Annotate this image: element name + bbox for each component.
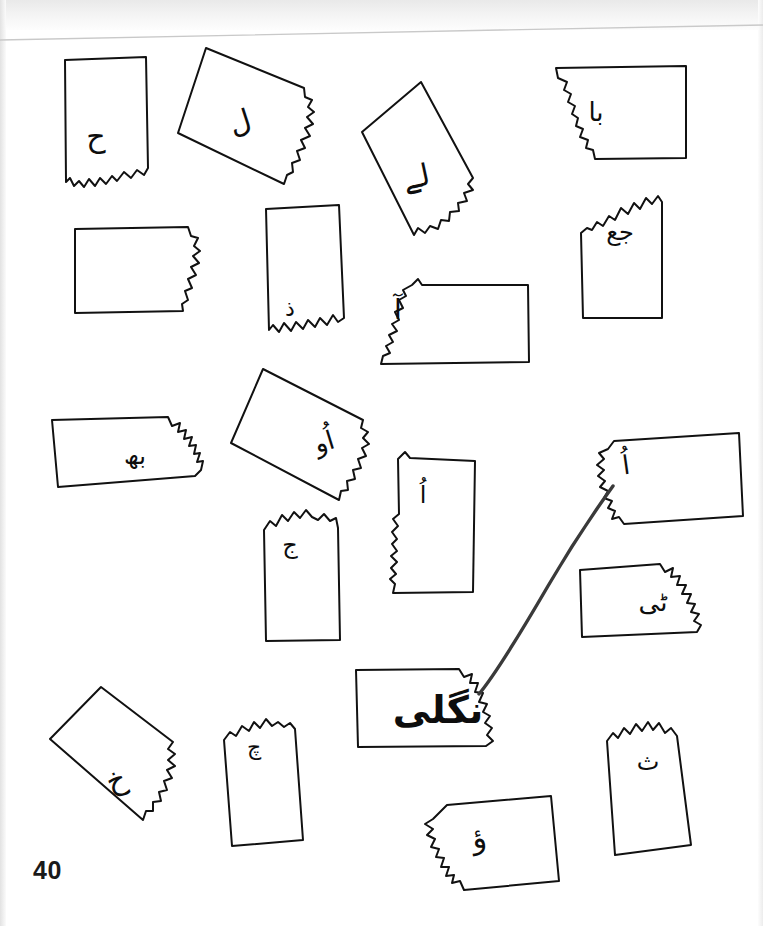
letter-card-three-dots[interactable] — [607, 722, 691, 855]
letter-card-hamza-waw[interactable] — [425, 796, 559, 890]
letter-card-jeem-dot-glyph: ج — [282, 533, 298, 557]
letter-card-nangli-glyph: نگلی — [393, 691, 483, 729]
letter-card-alif-slim-glyph: اُ — [420, 483, 427, 507]
worksheet-page: حللےباجعذآبھاُوجاُاُٹینگلیخچؤث 40 — [0, 0, 763, 926]
letter-card-jeem-ain-glyph: جع — [606, 220, 634, 244]
letter-card-baa[interactable] — [556, 66, 686, 159]
letter-card-khay[interactable] — [50, 687, 175, 820]
letter-card-dal-dot-glyph: ذ — [285, 298, 295, 320]
letter-card-cheem-glyph: چ — [247, 737, 261, 759]
letter-card-alif-damma-linked[interactable] — [597, 433, 743, 524]
letter-card-hay[interactable] — [65, 57, 148, 187]
letter-card-three-dots-glyph: ث — [637, 750, 660, 774]
letter-card-tte-ye-glyph: ٹی — [639, 589, 668, 615]
letter-card-baa-glyph: با — [588, 99, 603, 125]
letter-card-alif-slim[interactable] — [390, 452, 475, 593]
page-number: 40 — [33, 856, 62, 885]
letter-card-lay-glyph: لے — [400, 160, 433, 195]
letter-card-dal-dot[interactable] — [266, 205, 344, 332]
letter-card-alif-damma-waw[interactable] — [231, 369, 369, 500]
letter-card-alif-madda-glyph: آ — [394, 296, 402, 324]
letter-card-cheem[interactable] — [224, 719, 303, 846]
letter-card-plain-a[interactable] — [75, 227, 200, 313]
paper-fold-line — [0, 25, 763, 40]
letter-card-alif-madda[interactable] — [381, 279, 529, 364]
letter-card-hay-glyph: ح — [86, 122, 105, 152]
letter-card-jeem-ain[interactable] — [581, 196, 662, 318]
letter-card-noon-dot-glyph: بھ — [124, 444, 146, 468]
letter-card-jeem-dot[interactable] — [264, 510, 340, 641]
